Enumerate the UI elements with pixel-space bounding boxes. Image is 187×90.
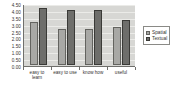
- bar-spatial-useful: [113, 27, 121, 65]
- y-tick-label: 2.50: [12, 30, 21, 35]
- y-tick-label: 3.00: [12, 23, 21, 28]
- y-tick-label: 0.00: [12, 65, 21, 70]
- x-axis-label: useful: [107, 70, 135, 90]
- bar-group: [53, 5, 81, 65]
- bar-spatial-easy-to-use: [58, 29, 66, 65]
- y-tick-label: 3.50: [12, 16, 21, 21]
- x-tick: [135, 67, 136, 70]
- bar-spatial-know-how: [85, 29, 93, 65]
- legend-label: Textual: [152, 36, 167, 41]
- bar-group: [25, 5, 53, 65]
- legend: SpatialTextual: [143, 26, 170, 45]
- y-tick-label: 0.50: [12, 58, 21, 63]
- y-tick-label: 1.50: [12, 44, 21, 49]
- y-axis: 4.504.003.503.002.502.001.501.000.500.00: [0, 3, 22, 69]
- bar-textual-easy-to-use: [67, 10, 75, 65]
- legend-swatch-icon: [146, 31, 150, 35]
- x-axis-labels: easy to learneasy to useknow howuseful: [23, 70, 135, 90]
- y-tick-label: 4.50: [12, 3, 21, 8]
- x-axis-label: easy to use: [51, 70, 79, 90]
- y-tick-label: 2.00: [12, 37, 21, 42]
- bar-chart: 4.504.003.503.002.502.001.501.000.500.00…: [0, 0, 187, 90]
- x-axis-label: know how: [79, 70, 107, 90]
- bar-textual-know-how: [94, 10, 102, 65]
- y-tick-label: 1.00: [12, 51, 21, 56]
- bar-group: [108, 5, 136, 65]
- y-tick-label: 4.00: [12, 9, 21, 14]
- bar-spatial-easy-to-learn: [30, 22, 38, 65]
- x-axis-label: easy to learn: [23, 70, 51, 90]
- legend-item: Spatial: [146, 30, 167, 35]
- plot-area: [23, 5, 135, 67]
- bar-groups: [25, 5, 135, 65]
- bar-group: [80, 5, 108, 65]
- legend-swatch-icon: [146, 37, 150, 41]
- legend-item: Textual: [146, 36, 167, 41]
- bar-textual-useful: [122, 20, 130, 65]
- bar-textual-easy-to-learn: [39, 8, 47, 65]
- legend-label: Spatial: [152, 30, 167, 35]
